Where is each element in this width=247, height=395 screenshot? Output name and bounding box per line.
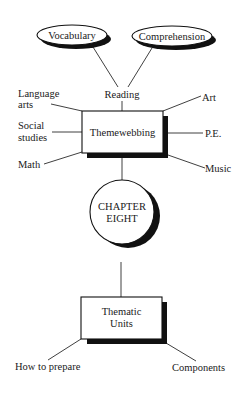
node-themewebbing: Themewebbing xyxy=(82,111,168,158)
language-arts-label-line2: arts xyxy=(18,99,33,110)
theme-web-diagram: Vocabulary Comprehension Reading Languag… xyxy=(0,0,247,395)
node-vocabulary: Vocabulary xyxy=(37,25,111,49)
math-label: Math xyxy=(18,159,41,170)
line-comprehension-reading xyxy=(128,48,152,87)
music-label: Music xyxy=(205,163,232,174)
line-how-to-prepare xyxy=(48,339,81,360)
components-label: Components xyxy=(172,362,225,373)
how-to-prepare-label: How to prepare xyxy=(15,361,81,372)
line-components xyxy=(166,343,196,361)
language-arts-label-line1: Language xyxy=(18,88,60,99)
chapter-circle xyxy=(90,180,154,244)
line-language-arts xyxy=(51,104,82,111)
comprehension-label: Comprehension xyxy=(139,31,206,42)
social-studies-label-line1: Social xyxy=(18,120,44,131)
reading-label: Reading xyxy=(105,89,141,100)
vocabulary-label: Vocabulary xyxy=(48,30,96,41)
themewebbing-label: Themewebbing xyxy=(90,127,156,138)
art-label: Art xyxy=(202,92,216,103)
node-thematic-units: Thematic Units xyxy=(81,297,167,344)
node-comprehension: Comprehension xyxy=(132,26,216,50)
node-chapter-eight: CHAPTER EIGHT xyxy=(90,180,160,248)
line-art xyxy=(163,96,201,111)
line-music xyxy=(168,155,205,168)
thematic-units-label-line2: Units xyxy=(110,318,133,329)
chapter-label-line2: EIGHT xyxy=(106,213,138,224)
thematic-units-label-line1: Thematic xyxy=(102,306,142,317)
line-math xyxy=(44,152,82,164)
chapter-label-line1: CHAPTER xyxy=(98,201,146,212)
pe-label: P.E. xyxy=(205,128,221,139)
social-studies-label-line2: studies xyxy=(18,132,47,143)
line-vocabulary-reading xyxy=(93,47,118,87)
